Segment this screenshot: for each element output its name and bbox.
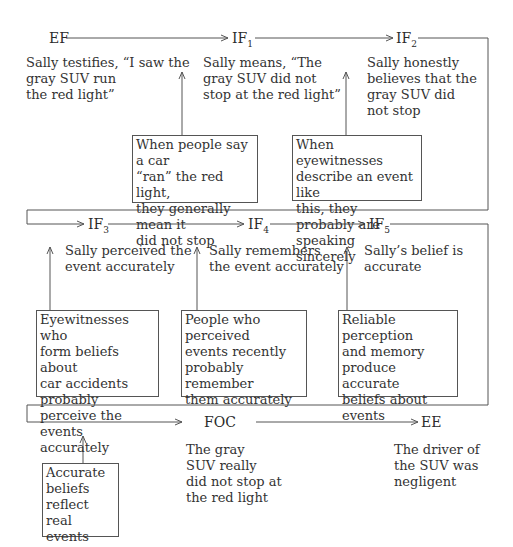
generalization-box-1: When people say a car “ran” the red ligh… <box>132 135 258 203</box>
node-if3-label: IF3 <box>88 216 109 238</box>
generalization-box-3: Eyewitnesses who form beliefs about car … <box>36 310 159 397</box>
node-ee-text: The driver of the SUV was negligent <box>394 442 480 490</box>
generalization-box-6: Accurate beliefs reflect real events <box>42 463 119 537</box>
node-if5-text: Sally’s belief is accurate <box>364 243 463 275</box>
node-foc-label: FOC <box>204 414 236 430</box>
generalization-box-4: People who perceived events recently pro… <box>181 310 307 397</box>
generalization-box-2: When eyewitnesses describe an event like… <box>292 135 422 201</box>
node-ef-text: Sally testifies, “I saw the gray SUV run… <box>26 55 190 103</box>
node-if2-text: Sally honestly believes that the gray SU… <box>367 55 477 119</box>
node-if1-text: Sally means, “The gray SUV did not stop … <box>203 55 341 103</box>
node-if4-label: IF4 <box>248 216 269 238</box>
node-if1-label: IF1 <box>232 30 253 52</box>
node-foc-text: The gray SUV really did not stop at the … <box>186 442 282 506</box>
generalization-box-5: Reliable perception and memory produce a… <box>338 310 458 397</box>
node-ef-label: EF <box>49 30 69 46</box>
node-if2-label: IF2 <box>396 30 417 52</box>
node-ee-label: EE <box>421 414 441 430</box>
